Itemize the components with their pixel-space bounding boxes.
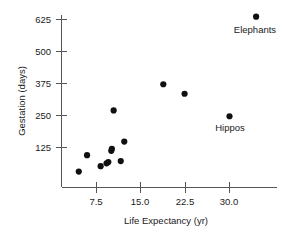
annotation-hippos: Hippos: [215, 122, 245, 133]
y-tick-label-625: 625: [35, 14, 51, 25]
y-tick-label-125: 125: [35, 142, 51, 153]
data-point: [121, 139, 127, 145]
scatter-plot-figure: 625 500 375 250 125 7.5 15.0 22.5 30.0 L…: [0, 0, 287, 234]
y-axis-title: Gestation (days): [16, 66, 27, 136]
y-tick-label-500: 500: [35, 46, 51, 57]
data-point: [109, 146, 115, 152]
x-axis-title: Life Expectancy (yr): [124, 215, 208, 226]
x-tick-label-7-5: 7.5: [89, 196, 102, 207]
x-tick-label-15-0: 15.0: [131, 196, 150, 207]
data-point: [84, 152, 90, 158]
data-point: [118, 158, 124, 164]
plot-canvas: 625 500 375 250 125 7.5 15.0 22.5 30.0 L…: [0, 0, 287, 234]
data-point: [160, 81, 166, 87]
annotation-elephants: Elephants: [234, 24, 277, 35]
x-tick-label-22-5: 22.5: [176, 196, 195, 207]
data-point: [181, 91, 187, 97]
data-point: [226, 113, 232, 119]
y-tick-label-375: 375: [35, 78, 51, 89]
data-point: [111, 107, 117, 113]
data-point: [253, 14, 259, 20]
x-tick-label-30-0: 30.0: [220, 196, 239, 207]
data-point: [98, 163, 104, 169]
data-point: [105, 159, 111, 165]
y-tick-label-250: 250: [35, 110, 51, 121]
data-points-layer: [76, 14, 260, 175]
data-point: [76, 168, 82, 174]
